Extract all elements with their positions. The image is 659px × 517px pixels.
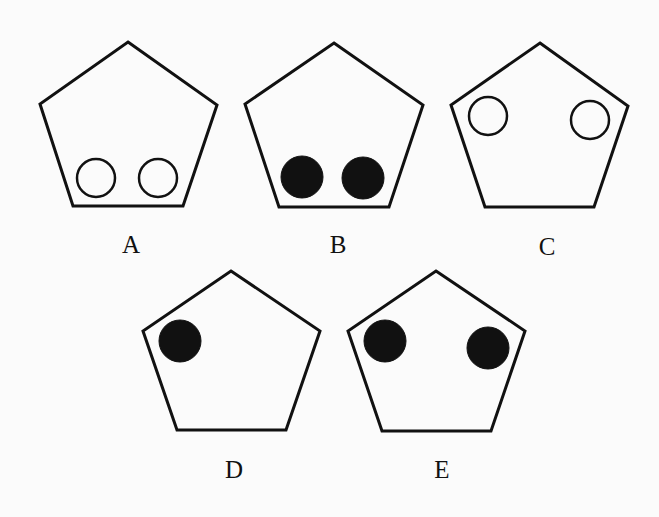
pentagon-c bbox=[451, 43, 628, 207]
pentagon-diagram: A B C D E bbox=[0, 0, 659, 517]
label-d: D bbox=[225, 456, 243, 483]
figure-a: A bbox=[40, 42, 217, 258]
filled-circle bbox=[342, 157, 384, 199]
label-b: B bbox=[330, 231, 347, 258]
filled-circle bbox=[364, 320, 406, 362]
hollow-circle bbox=[469, 97, 507, 135]
filled-circle bbox=[467, 327, 509, 369]
figure-c: C bbox=[451, 43, 628, 260]
figure-b: B bbox=[245, 43, 423, 258]
label-a: A bbox=[122, 231, 140, 258]
figure-d: D bbox=[143, 271, 320, 483]
label-c: C bbox=[539, 233, 556, 260]
hollow-circle bbox=[571, 101, 609, 139]
circles-a bbox=[77, 159, 177, 197]
figure-e: E bbox=[348, 271, 525, 483]
circles-b bbox=[281, 156, 384, 199]
label-e: E bbox=[434, 456, 449, 483]
hollow-circle bbox=[139, 159, 177, 197]
filled-circle bbox=[281, 156, 323, 198]
hollow-circle bbox=[77, 159, 115, 197]
circles-c bbox=[469, 97, 609, 139]
filled-circle bbox=[159, 320, 201, 362]
circles-e bbox=[364, 320, 509, 369]
pentagon-b bbox=[245, 43, 423, 207]
circles-d bbox=[159, 320, 201, 362]
pentagon-a bbox=[40, 42, 217, 206]
